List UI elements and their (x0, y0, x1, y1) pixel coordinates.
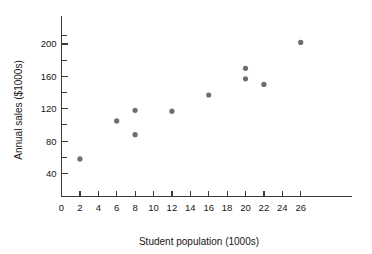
x-tick-label: 6 (114, 202, 119, 213)
data-point (169, 109, 174, 114)
x-tick-label: 24 (277, 202, 288, 213)
x-tick-label: 16 (203, 202, 214, 213)
x-tick-label: 0 (59, 202, 64, 213)
data-point (77, 156, 82, 161)
x-tick-label: 18 (222, 202, 233, 213)
x-axis-title: Student population (1000s) (139, 236, 259, 247)
x-tick-label: 8 (132, 202, 137, 213)
x-tick-label: 10 (148, 202, 159, 213)
x-axis-major-ticks (80, 191, 301, 197)
data-point (206, 92, 211, 97)
x-tick-label: 12 (167, 202, 178, 213)
y-tick-label: 120 (41, 103, 57, 114)
y-tick-label: 160 (41, 71, 57, 82)
x-tick-label: 22 (259, 202, 270, 213)
y-axis-major-ticks (62, 44, 69, 174)
data-point (261, 82, 266, 87)
data-point (114, 118, 119, 123)
x-tick-label: 20 (240, 202, 251, 213)
data-point-group (77, 40, 303, 162)
x-axis-tick-labels: 02468101214161820222426 (59, 202, 306, 213)
x-tick-label: 26 (295, 202, 306, 213)
y-axis-tick-labels: 4080120160200 (41, 38, 57, 179)
data-point (243, 76, 248, 81)
y-tick-label: 200 (41, 38, 57, 49)
y-axis-minor-ticks (62, 36, 67, 157)
x-tick-label: 4 (96, 202, 101, 213)
data-point (133, 132, 138, 137)
x-tick-label: 2 (77, 202, 82, 213)
data-point (133, 108, 138, 113)
scatter-chart: 4080120160200 02468101214161820222426 St… (0, 0, 372, 254)
y-axis-title: Annual sales ($1000s) (13, 60, 24, 160)
y-tick-label: 40 (46, 168, 57, 179)
data-point (298, 40, 303, 45)
y-tick-label: 80 (46, 136, 57, 147)
data-point (243, 66, 248, 71)
x-tick-label: 14 (185, 202, 196, 213)
plot-area: 4080120160200 02468101214161820222426 St… (0, 0, 372, 254)
